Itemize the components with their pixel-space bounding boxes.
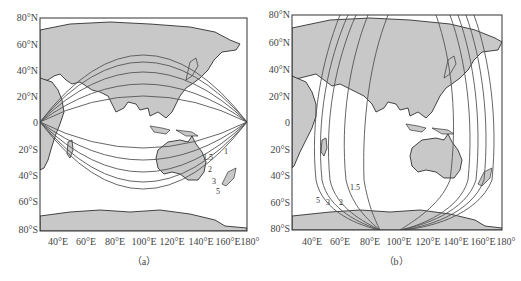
contour-label-a-3: 3 <box>212 177 216 186</box>
y-tick-a-4: 0 <box>2 117 38 128</box>
x-tick-b-7: 180° <box>488 236 521 247</box>
y-tick-b-7: 60°S <box>254 197 290 208</box>
y-tick-a-5: 20°S <box>2 144 38 155</box>
y-tick-b-6: 40°S <box>254 170 290 181</box>
y-tick-b-4: 0 <box>254 117 290 128</box>
y-tick-a-7: 60°S <box>2 196 38 207</box>
y-tick-b-8: 80°S <box>254 223 290 234</box>
y-tick-b-2: 40°N <box>254 64 290 75</box>
map-panel-b: 5 3 2 1.5 80°N 60°N 40°N 20°N 0 20°S 40°… <box>260 0 520 281</box>
contour-label-a-1: 1 <box>224 147 228 156</box>
caption-b: （b） <box>376 253 416 268</box>
contour-label-b-2: 2 <box>339 198 343 207</box>
contour-label-b-5: 5 <box>316 196 320 205</box>
contour-label-b-1.5: 1.5 <box>350 183 360 192</box>
y-tick-b-0: 80°N <box>254 9 290 20</box>
y-tick-a-2: 40°N <box>2 65 38 76</box>
contour-label-a-2: 2 <box>208 165 212 174</box>
y-tick-b-1: 60°N <box>254 37 290 48</box>
y-tick-a-3: 20°N <box>2 91 38 102</box>
y-tick-a-8: 80°S <box>2 224 38 235</box>
contour-label-a-5: 5 <box>216 187 220 196</box>
caption-a: （a） <box>124 253 164 268</box>
y-tick-b-3: 20°N <box>254 91 290 102</box>
y-tick-b-5: 20°S <box>254 144 290 155</box>
contour-label-a-1.5: 1.5 <box>203 153 213 162</box>
y-tick-a-6: 40°S <box>2 170 38 181</box>
y-tick-a-0: 80°N <box>2 12 38 23</box>
y-tick-a-1: 60°N <box>2 39 38 50</box>
map-panel-a: 1 1.5 2 3 5 80°N 60°N 40°N 20°N 0 20°S 4… <box>0 0 260 281</box>
contour-label-b-3: 3 <box>326 198 330 207</box>
